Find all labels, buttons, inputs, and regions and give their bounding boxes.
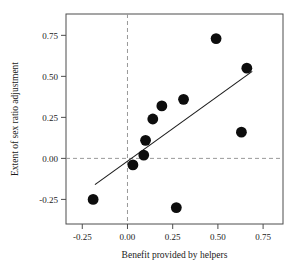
plot-frame xyxy=(66,14,283,224)
data-point-9 xyxy=(236,127,247,138)
x-tick-label-0: -0.25 xyxy=(73,232,92,242)
plot-canvas: -0.250.000.250.500.75-0.250.000.250.500.… xyxy=(0,0,299,274)
x-tick-label-2: 0.25 xyxy=(165,232,181,242)
data-point-0 xyxy=(88,194,99,205)
y-tick-label-1: 0.00 xyxy=(42,154,58,164)
y-tick-label-4: 0.75 xyxy=(42,31,58,41)
data-point-1 xyxy=(128,160,139,171)
data-point-5 xyxy=(156,100,167,111)
data-point-4 xyxy=(147,114,158,125)
y-tick-label-0: -0.25 xyxy=(39,195,58,205)
y-tick-label-2: 0.25 xyxy=(42,113,58,123)
y-tick-label-3: 0.50 xyxy=(42,72,58,82)
data-point-6 xyxy=(171,202,182,213)
x-axis-title: Benefit provided by helpers xyxy=(122,250,228,260)
regression-line xyxy=(95,71,252,184)
scatter-plot-figure: -0.250.000.250.500.75-0.250.000.250.500.… xyxy=(0,0,299,274)
x-tick-label-1: 0.00 xyxy=(120,232,136,242)
y-axis-title: Extent of sex ratio adjustment xyxy=(10,62,20,176)
data-point-7 xyxy=(178,94,189,105)
data-point-10 xyxy=(241,63,252,74)
data-point-3 xyxy=(140,135,151,146)
x-tick-label-4: 0.75 xyxy=(255,232,271,242)
data-point-8 xyxy=(211,33,222,44)
data-point-2 xyxy=(138,150,149,161)
x-tick-label-3: 0.50 xyxy=(210,232,226,242)
